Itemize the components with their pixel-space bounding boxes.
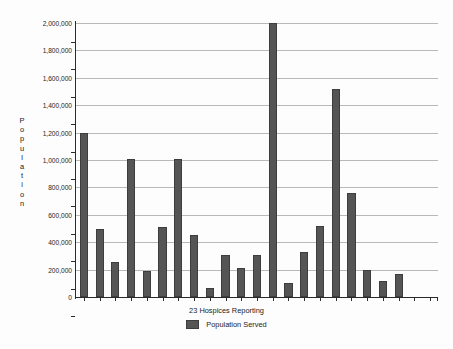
y-axis-tick-mark	[71, 152, 75, 153]
y-axis-tick-mark	[71, 234, 75, 235]
y-axis-tick-mark	[71, 69, 75, 70]
x-axis-tick-mark	[147, 297, 148, 301]
y-axis-tick-label: 600,000	[26, 211, 72, 218]
bar	[395, 274, 403, 297]
x-axis-tick-mark	[178, 297, 179, 301]
bar	[237, 268, 245, 297]
x-axis-tick-mark	[430, 297, 431, 301]
bar	[347, 193, 355, 297]
bar-series-population-served	[76, 23, 438, 297]
bar	[111, 262, 119, 297]
y-axis-tick-label: 1,800,000	[26, 47, 72, 54]
x-axis-tick-mark	[320, 297, 321, 301]
legend-label-population-served: Population Served	[206, 320, 266, 329]
x-axis-tick-mark	[84, 297, 85, 301]
x-axis-tick-mark	[226, 297, 227, 301]
bar	[143, 271, 151, 297]
bar	[190, 235, 198, 297]
plot-area	[76, 23, 438, 297]
y-axis-tick-label: 2,000,000	[26, 20, 72, 27]
y-axis-tick-label: 1,000,000	[26, 157, 72, 164]
x-axis-tick-mark	[304, 297, 305, 301]
bar	[158, 227, 166, 297]
x-axis-tick-mark	[288, 297, 289, 301]
y-axis-tick-label: 0	[26, 294, 72, 301]
y-axis-tick-mark	[71, 206, 75, 207]
y-axis-tick-label: 1,400,000	[26, 102, 72, 109]
legend-swatch-population-served	[186, 320, 199, 329]
x-axis-tick-marks	[76, 297, 438, 302]
bar	[379, 281, 387, 297]
x-axis-tick-mark	[210, 297, 211, 301]
x-axis-tick-mark	[257, 297, 258, 301]
y-axis-tick-label: 1,200,000	[26, 129, 72, 136]
x-axis-tick-mark	[437, 297, 438, 301]
y-axis-tick-mark	[71, 289, 75, 290]
bar	[221, 255, 229, 297]
bar	[363, 270, 371, 297]
bar	[80, 133, 88, 297]
y-axis-tick-mark	[71, 97, 75, 98]
y-axis-tick-mark	[71, 179, 75, 180]
x-axis-tick-mark	[115, 297, 116, 301]
y-axis-tick-labels: 2,000,0001,800,0001,600,0001,400,0001,20…	[26, 0, 72, 349]
y-axis-tick-label: 800,000	[26, 184, 72, 191]
bar	[332, 89, 340, 297]
y-axis-tick-mark	[71, 42, 75, 43]
bar	[269, 23, 277, 297]
x-axis-title: 23 Hospices Reporting	[0, 306, 453, 315]
bar-chart: Population 2,000,0001,800,0001,600,0001,…	[0, 0, 453, 349]
y-axis-tick-label: 200,000	[26, 266, 72, 273]
bar	[127, 159, 135, 297]
bar	[300, 252, 308, 297]
x-axis-tick-mark	[399, 297, 400, 301]
chart-legend: Population Served	[0, 320, 453, 329]
x-axis-tick-mark	[194, 297, 195, 301]
y-axis-tick-label: 1,600,000	[26, 74, 72, 81]
x-axis-tick-mark	[383, 297, 384, 301]
x-axis-tick-mark	[351, 297, 352, 301]
bar	[253, 255, 261, 297]
x-axis-tick-mark	[367, 297, 368, 301]
x-axis-tick-mark	[336, 297, 337, 301]
bar	[206, 288, 214, 297]
y-axis-tick-mark	[71, 261, 75, 262]
bar	[174, 159, 182, 297]
y-axis-tick-mark	[71, 124, 75, 125]
bar	[96, 229, 104, 298]
x-axis-tick-mark	[131, 297, 132, 301]
x-axis-tick-mark	[241, 297, 242, 301]
x-axis-tick-mark	[273, 297, 274, 301]
y-axis-tick-mark	[71, 316, 75, 317]
x-axis-tick-mark	[100, 297, 101, 301]
bar	[316, 226, 324, 297]
x-axis-tick-mark	[163, 297, 164, 301]
y-axis-tick-label: 400,000	[26, 239, 72, 246]
x-axis-tick-mark	[414, 297, 415, 301]
bar	[284, 283, 292, 297]
